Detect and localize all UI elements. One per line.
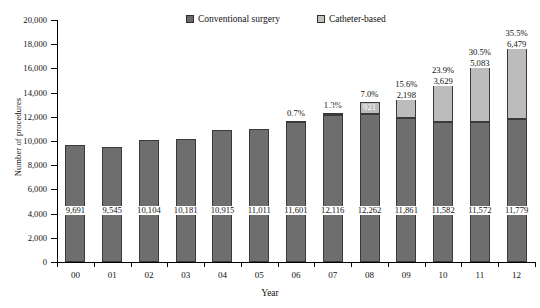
y-axis-tick: [51, 93, 57, 94]
x-axis-tick: [314, 262, 315, 267]
y-axis-tick-label: 10,000: [0, 136, 47, 146]
y-axis-tick: [51, 117, 57, 118]
y-axis-line: [57, 20, 58, 263]
bar-segment-conventional-surgery: [470, 122, 490, 262]
bar-percent-label: 15.6%: [395, 80, 417, 89]
bar-segment-conventional-surgery: [139, 140, 159, 262]
y-axis-tick-label: 16,000: [0, 63, 47, 73]
y-axis-tick: [51, 68, 57, 69]
bar-segment-conventional-surgery: [212, 130, 232, 262]
y-axis-tick: [51, 141, 57, 142]
stacked-bar-chart: Number of procedures Conventional surger…: [0, 0, 540, 308]
bar-segment-conventional-surgery: [286, 122, 306, 262]
bar-value-label-conventional-surgery: 11,861: [394, 206, 419, 215]
bar-percent-label: 35.5%: [506, 29, 528, 38]
x-axis-tick-label: 07: [328, 270, 337, 280]
bar-value-label-catheter-based: 157: [325, 104, 340, 113]
bar-segment-catheter-based: [323, 113, 343, 115]
bar-value-label-catheter-based: 5,083: [469, 59, 490, 68]
x-axis-tick-label: 00: [71, 270, 80, 280]
bar-segment-catheter-based: [507, 41, 527, 119]
y-axis-tick-label: 14,000: [0, 88, 47, 98]
x-axis-tick: [351, 262, 352, 267]
bar-value-label-catheter-based: 78: [291, 111, 302, 120]
x-axis-tick: [498, 262, 499, 267]
bar-percent-label: 23.9%: [432, 66, 454, 75]
y-axis-tick-label: 0: [0, 257, 47, 267]
x-axis-tick-label: 01: [108, 270, 117, 280]
bar-value-label-catheter-based: 6,479: [506, 40, 527, 49]
y-axis-tick: [51, 44, 57, 45]
bar-value-label-conventional-surgery: 10,181: [173, 206, 199, 215]
x-axis-line: [57, 262, 535, 263]
bar-segment-conventional-surgery: [396, 118, 416, 262]
y-axis-tick: [51, 20, 57, 21]
bar-value-label-conventional-surgery: 11,582: [430, 206, 455, 215]
x-axis-tick-label: 06: [292, 270, 301, 280]
bar-value-label-conventional-surgery: 12,262: [357, 206, 383, 215]
y-axis-tick-label: 4,000: [0, 209, 47, 219]
y-axis-tick: [51, 189, 57, 190]
chart-legend: Conventional surgery Catheter-based: [186, 14, 386, 24]
legend-swatch-icon-conventional-surgery: [186, 15, 194, 23]
legend-label-catheter-based: Catheter-based: [329, 14, 386, 24]
bar-value-label-conventional-surgery: 11,011: [247, 206, 272, 215]
x-axis-tick: [131, 262, 132, 267]
y-axis-tick-label: 12,000: [0, 112, 47, 122]
bar-segment-catheter-based: [470, 60, 490, 122]
bar-segment-conventional-surgery: [176, 139, 196, 262]
x-axis-tick-label: 10: [439, 270, 448, 280]
bar-segment-conventional-surgery: [323, 115, 343, 262]
bar-value-label-conventional-surgery: 9,691: [65, 206, 86, 215]
y-axis-tick-label: 20,000: [0, 15, 47, 25]
x-axis-tick-label: 09: [402, 270, 411, 280]
bar-percent-label: 7.0%: [361, 90, 379, 99]
bar-segment-conventional-surgery: [249, 129, 269, 262]
bar-segment-conventional-surgery: [433, 122, 453, 262]
legend-item-catheter-based: Catheter-based: [317, 14, 386, 24]
bar-value-label-conventional-surgery: 9,545: [101, 206, 122, 215]
x-axis-tick: [94, 262, 95, 267]
bar-value-label-conventional-surgery: 12,116: [320, 206, 345, 215]
x-axis-tick: [388, 262, 389, 267]
x-axis-tick-label: 08: [365, 270, 374, 280]
x-axis-tick-label: 11: [476, 270, 485, 280]
x-axis-tick: [241, 262, 242, 267]
x-axis-tick: [425, 262, 426, 267]
x-axis-tick: [535, 262, 536, 267]
bar-segment-conventional-surgery: [360, 114, 380, 262]
bar-value-label-conventional-surgery: 11,601: [283, 206, 308, 215]
y-axis-tick: [51, 165, 57, 166]
y-axis-tick-label: 6,000: [0, 184, 47, 194]
bar-percent-label: 30.5%: [469, 48, 491, 57]
x-axis-tick: [167, 262, 168, 267]
x-axis-tick-label: 05: [255, 270, 264, 280]
legend-swatch-icon-catheter-based: [317, 15, 325, 23]
x-axis-tick-label: 02: [144, 270, 153, 280]
x-axis-tick: [57, 262, 58, 267]
bar-segment-catheter-based: [286, 121, 306, 123]
legend-item-conventional-surgery: Conventional surgery: [186, 14, 280, 24]
bar-value-label-catheter-based: 3,629: [432, 77, 453, 86]
bar-value-label-catheter-based: 921: [362, 103, 377, 112]
y-axis-tick-label: 18,000: [0, 39, 47, 49]
bar-value-label-conventional-surgery: 10,915: [210, 206, 236, 215]
bar-segment-conventional-surgery: [65, 145, 85, 262]
y-axis-tick-label: 8,000: [0, 160, 47, 170]
y-axis-tick-label: 2,000: [0, 233, 47, 243]
x-axis-tick: [461, 262, 462, 267]
legend-label-conventional-surgery: Conventional surgery: [198, 14, 280, 24]
x-axis-title: Year: [0, 288, 540, 298]
bar-value-label-conventional-surgery: 11,779: [504, 206, 529, 215]
bar-value-label-conventional-surgery: 11,572: [467, 206, 492, 215]
bar-segment-conventional-surgery: [102, 147, 122, 262]
x-axis-tick: [204, 262, 205, 267]
x-axis-tick: [278, 262, 279, 267]
bar-value-label-catheter-based: 2,198: [396, 91, 417, 100]
x-axis-tick-label: 12: [512, 270, 521, 280]
x-axis-tick-label: 04: [218, 270, 227, 280]
bar-segment-conventional-surgery: [507, 119, 527, 262]
y-axis-tick: [51, 238, 57, 239]
y-axis-tick: [51, 214, 57, 215]
x-axis-tick-label: 03: [181, 270, 190, 280]
